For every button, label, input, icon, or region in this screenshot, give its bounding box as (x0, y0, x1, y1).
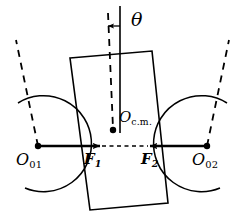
label-theta: θ (131, 10, 142, 29)
label-force-f2: F2 (141, 152, 158, 167)
physics-diagram-figure: θ Oc.m. O01 O02 F1 F2 (0, 0, 241, 224)
dashed-radius-right (207, 40, 229, 146)
center-of-mass-dot (110, 127, 116, 133)
label-pivot-left: O01 (16, 152, 42, 168)
dashed-radius-left (16, 40, 38, 146)
pivot-point-right-dot (204, 143, 210, 149)
label-pivot-right: O02 (192, 152, 218, 168)
pivot-point-left-dot (35, 143, 41, 149)
tilted-block (70, 51, 168, 210)
label-center-of-mass: Oc.m. (119, 110, 152, 125)
label-force-f1: F1 (84, 152, 101, 167)
